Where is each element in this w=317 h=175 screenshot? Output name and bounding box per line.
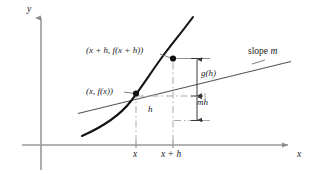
function-curve [82,17,193,136]
label-leaders [124,54,265,94]
x-tick-label-x: x [133,150,137,160]
slope-annotation: slope m [248,47,277,57]
derivative-secant-figure: y x (x + h, f(x + h)) (x, f(x)) g(h) mh … [0,0,317,175]
slope-annotation-prefix: slope [248,46,270,56]
slope-annotation-symbol: m [270,46,277,56]
x-axis-label: x [297,150,301,160]
y-axis-label: y [27,5,31,15]
axes-group [22,18,288,170]
gap-upper-label: g(h) [201,69,216,78]
point-xh-fxh [170,55,176,61]
x-tick-label-x-plus-h: x + h [161,150,181,160]
point-far-label: (x + h, f(x + h)) [86,46,143,55]
point-near-label: (x, f(x)) [86,87,113,96]
figure-canvas [0,0,317,175]
point-x-fx [133,90,139,96]
leader-slope-label [252,60,265,64]
leader-near-point [124,92,134,94]
run-label: h [148,105,153,114]
gap-lower-label: mh [197,98,208,107]
